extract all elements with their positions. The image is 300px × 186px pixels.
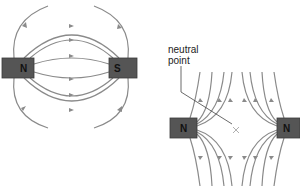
neutral-point-leader bbox=[181, 66, 232, 124]
neutral-label-line1: neutral bbox=[168, 44, 199, 55]
pole-label-n: N bbox=[20, 63, 27, 74]
pole-label-n: N bbox=[180, 123, 187, 134]
magnet-north-left bbox=[2, 58, 34, 78]
pole-label-n: N bbox=[283, 123, 290, 134]
neutral-point-marker bbox=[233, 127, 239, 133]
field-diagram: N S N N bbox=[0, 0, 300, 186]
neutral-point-label: neutral point bbox=[168, 44, 199, 66]
neutral-label-line2: point bbox=[168, 55, 199, 66]
pole-label-s: S bbox=[114, 63, 121, 74]
